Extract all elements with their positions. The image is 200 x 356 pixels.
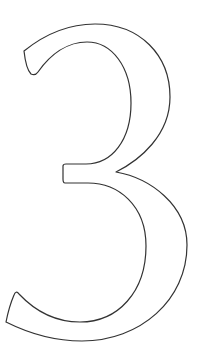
- numeral-three-path: [6, 24, 187, 341]
- numeral-three-outline-icon: [0, 0, 200, 356]
- numeral-canvas: 3: [0, 0, 200, 356]
